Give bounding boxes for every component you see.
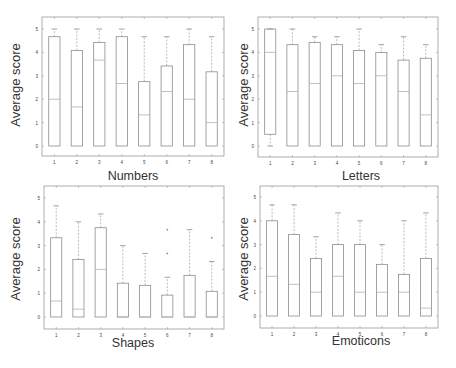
x-tick-label: 2 <box>76 160 79 165</box>
y-tick-label: 4 <box>35 50 38 55</box>
x-tick-label: 4 <box>121 160 124 165</box>
box <box>184 275 195 317</box>
panel-title-emoticons: Emoticons <box>268 334 454 348</box>
x-tick-label: 5 <box>358 161 361 166</box>
panel-title-letters: Letters <box>268 169 454 183</box>
y-axis-label-text: Average score <box>8 43 23 127</box>
panel-numbers: 01234512345678 Average score Numbers <box>0 0 228 184</box>
plot-frame <box>44 186 224 329</box>
y-axis-label: Average score <box>4 184 26 334</box>
box <box>184 45 195 146</box>
box <box>117 283 128 317</box>
y-axis-label: Average score <box>4 10 26 160</box>
x-tick-label: 6 <box>165 160 168 165</box>
x-tick-label: 3 <box>98 160 101 165</box>
box <box>94 43 105 146</box>
y-tick-label: 5 <box>35 27 38 32</box>
outlier-point <box>166 229 168 231</box>
y-axis-label-text: Average score <box>236 43 251 127</box>
plot-frame <box>258 17 438 157</box>
box <box>140 285 151 317</box>
y-tick-label: 3 <box>37 244 40 249</box>
x-tick-label: 6 <box>380 161 383 166</box>
box <box>289 235 300 316</box>
box <box>206 72 217 146</box>
x-tick-label: 2 <box>291 161 294 166</box>
panel-emoticons: 01234512345678 Average score Emoticons <box>228 184 456 368</box>
box <box>49 37 60 146</box>
box <box>162 295 173 317</box>
box <box>398 274 409 316</box>
chart-plot-letters: 01234512345678 <box>228 0 456 184</box>
y-tick-label: 2 <box>37 267 40 272</box>
box <box>331 45 342 146</box>
box <box>51 238 62 317</box>
box <box>420 58 431 146</box>
outlier-point <box>211 237 213 239</box>
outlier-point <box>166 253 168 255</box>
box <box>309 43 320 146</box>
box <box>71 51 82 146</box>
y-tick-label: 0 <box>35 144 38 149</box>
box <box>161 66 172 146</box>
y-tick-label: 1 <box>37 291 40 296</box>
y-tick-label: 3 <box>35 74 38 79</box>
x-tick-label: 7 <box>402 161 405 166</box>
x-tick-label: 5 <box>143 160 146 165</box>
box <box>354 51 365 146</box>
x-tick-label: 8 <box>425 161 428 166</box>
box <box>311 258 322 316</box>
box <box>287 45 298 146</box>
panel-title-shapes: Shapes <box>40 336 226 350</box>
y-tick-label: 1 <box>35 121 38 126</box>
box <box>139 82 150 146</box>
chart-plot-numbers: 01234512345678 <box>0 0 228 184</box>
y-tick-label: 2 <box>35 97 38 102</box>
box <box>354 245 365 316</box>
box <box>73 259 84 317</box>
x-tick-label: 4 <box>336 161 339 166</box>
box <box>398 60 409 146</box>
x-tick-label: 1 <box>269 161 272 166</box>
box <box>206 291 217 317</box>
x-tick-label: 7 <box>188 160 191 165</box>
y-tick-label: 5 <box>37 196 40 201</box>
panel-title-numbers: Numbers <box>40 169 226 183</box>
box <box>267 221 278 316</box>
y-axis-label-text: Average score <box>8 217 23 301</box>
panel-shapes: 01234512345678 Average score Shapes <box>0 184 228 368</box>
y-axis-label: Average score <box>232 184 254 334</box>
x-tick-label: 8 <box>210 160 213 165</box>
box <box>420 258 431 316</box>
box <box>265 29 276 134</box>
y-tick-label: 0 <box>37 315 40 320</box>
box <box>333 245 344 316</box>
y-tick-label: 4 <box>37 220 40 225</box>
plot-frame <box>42 17 224 156</box>
box <box>376 264 387 316</box>
box <box>116 37 127 146</box>
plot-frame <box>260 186 438 328</box>
x-tick-label: 3 <box>313 161 316 166</box>
x-tick-label: 1 <box>53 160 56 165</box>
y-axis-label: Average score <box>232 10 254 160</box>
box <box>95 228 106 317</box>
panel-letters: 01234512345678 Average score Letters <box>228 0 456 184</box>
box <box>376 52 387 146</box>
y-axis-label-text: Average score <box>236 217 251 301</box>
